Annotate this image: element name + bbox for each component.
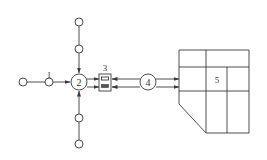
source-left-node [19, 78, 27, 86]
node-3-group: 3 [99, 63, 111, 91]
node-3-slot-bottom [102, 85, 109, 88]
top-outer-node [75, 18, 83, 26]
bottom-outer-node [75, 140, 83, 148]
process-flow-diagram: 1 2 3 [0, 0, 267, 160]
edge-n4-to-n5 [156, 79, 179, 87]
left-input-chain: 1 [19, 70, 70, 86]
node-5-block: 5 [179, 50, 249, 133]
top-input-chain [75, 18, 83, 73]
label-1: 1 [47, 70, 52, 80]
label-5: 5 [215, 75, 220, 85]
bottom-input-chain [75, 91, 83, 148]
edge-n2-to-n3 [87, 79, 99, 87]
node-4-group: 4 [140, 74, 156, 90]
node-5-outline [179, 50, 249, 133]
edge-n3-n4 [112, 79, 140, 87]
node-2-group: 2 [71, 74, 87, 90]
label-3: 3 [103, 63, 108, 73]
label-4: 4 [146, 77, 151, 88]
top-inner-node [75, 45, 83, 53]
label-2: 2 [77, 77, 82, 88]
bottom-inner-node [75, 114, 83, 122]
